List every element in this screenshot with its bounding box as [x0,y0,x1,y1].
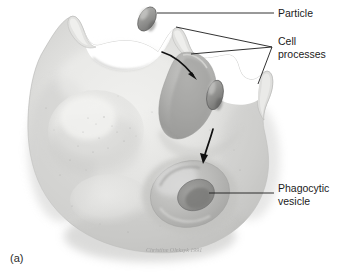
phagocytosis-figure: Particle Cell processes Phagocytic vesic… [0,0,351,277]
panel-label: (a) [10,252,23,264]
leader-cell-process-cup [191,47,272,54]
figure-canvas: Particle Cell processes Phagocytic vesic… [0,0,351,277]
label-particle: Particle [278,7,313,19]
particle-free [134,4,160,34]
secondary-bulge [70,174,150,226]
label-phagocytic-vesicle-line2: vesicle [278,195,310,207]
label-cell-processes-line1: Cell [278,35,296,47]
label-phagocytic-vesicle-line1: Phagocytic [278,182,329,194]
particle-free-body [134,4,160,34]
label-cell-processes-line2: processes [278,48,326,60]
artist-signature: Christine Oleksyk 1991 [146,247,202,253]
leader-cell-process-middle [176,27,272,47]
